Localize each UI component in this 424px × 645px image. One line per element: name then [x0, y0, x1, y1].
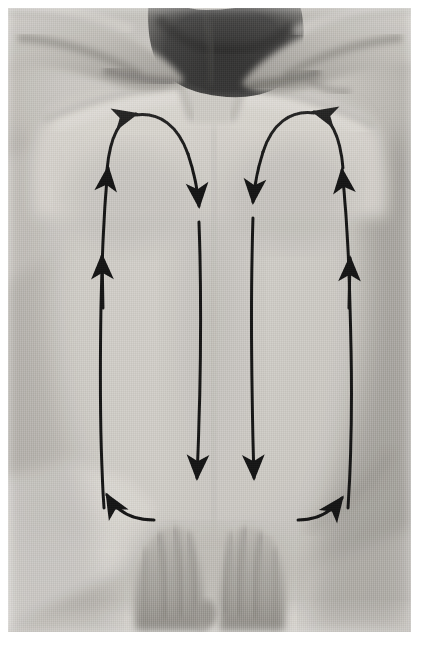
massage-photograph	[8, 8, 411, 632]
photo-lighting	[8, 8, 411, 632]
figure-container	[0, 0, 424, 645]
photo-svg	[8, 8, 411, 632]
